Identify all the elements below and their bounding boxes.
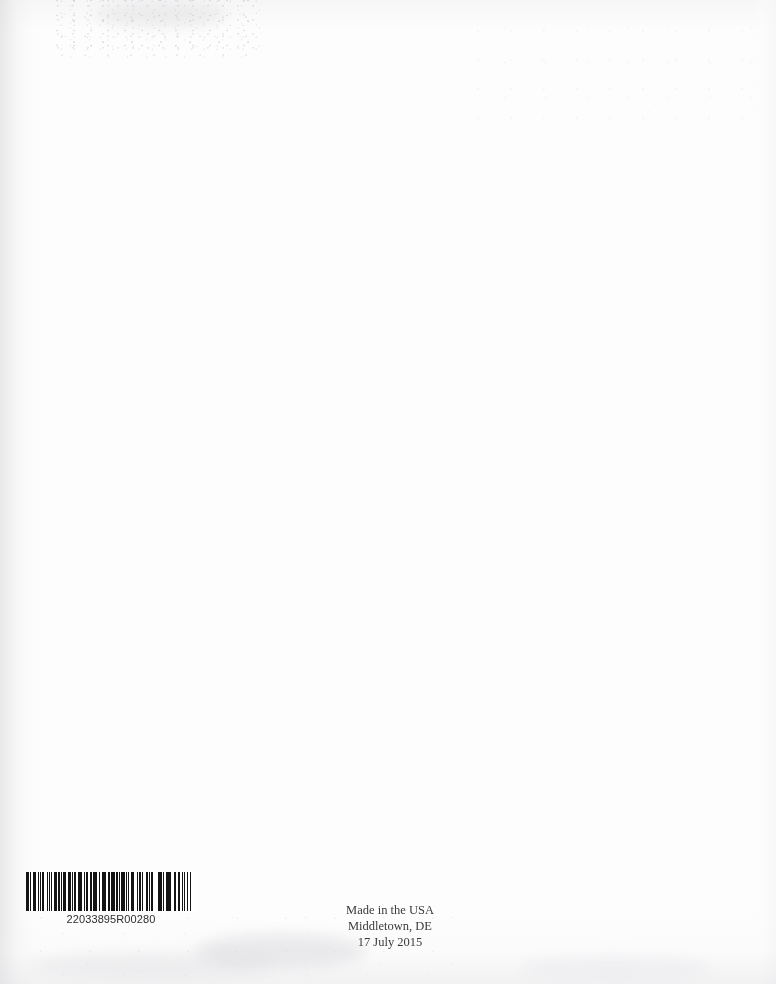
barcode-number-text: 22033895R00280 (26, 913, 196, 925)
scanned-page: 22033895R00280 Made in the USA Middletow… (0, 0, 776, 984)
paper-background (0, 0, 776, 984)
barcode-bars (26, 872, 196, 911)
imprint-line-date: 17 July 2015 (290, 935, 490, 951)
barcode: 22033895R00280 (26, 872, 196, 925)
imprint-line-made-in: Made in the USA (290, 903, 490, 919)
imprint-line-city: Middletown, DE (290, 919, 490, 935)
imprint-block: Made in the USA Middletown, DE 17 July 2… (290, 903, 490, 950)
